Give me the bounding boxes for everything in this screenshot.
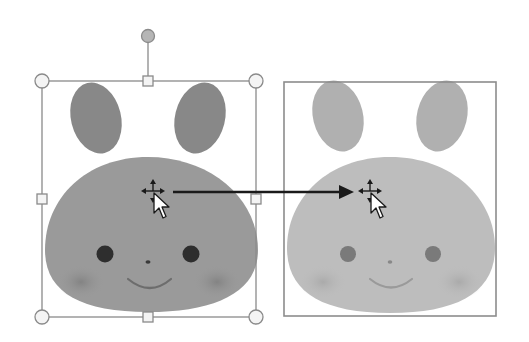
resize-handle-top-right[interactable] [249, 74, 263, 88]
resize-handle-right[interactable] [251, 194, 261, 204]
rotate-handle[interactable] [142, 30, 155, 43]
rabbit-left-eye [97, 246, 114, 263]
rabbit-left-ear [63, 77, 129, 159]
rabbit-right-cheek [193, 265, 241, 299]
ghost-nose [388, 260, 393, 263]
resize-handle-bottom-left[interactable] [35, 310, 49, 324]
ghost-left-cheek [299, 265, 347, 299]
ghost-rabbit-image [287, 75, 495, 313]
rabbit-nose [146, 260, 151, 264]
canvas [0, 0, 529, 342]
source-rabbit-image[interactable] [45, 77, 258, 312]
ghost-right-eye [425, 246, 441, 262]
ghost-right-ear [409, 75, 475, 157]
rabbit-left-cheek [57, 265, 105, 299]
rabbit-right-ear [167, 77, 233, 159]
resize-handle-bottom-right[interactable] [249, 310, 263, 324]
rabbit-right-eye [183, 246, 200, 263]
ghost-left-eye [340, 246, 356, 262]
resize-handle-left[interactable] [37, 194, 47, 204]
resize-handle-bottom[interactable] [143, 312, 153, 322]
ghost-right-cheek [435, 265, 483, 299]
resize-handle-top-left[interactable] [35, 74, 49, 88]
resize-handle-top[interactable] [143, 76, 153, 86]
ghost-left-ear [305, 75, 371, 157]
